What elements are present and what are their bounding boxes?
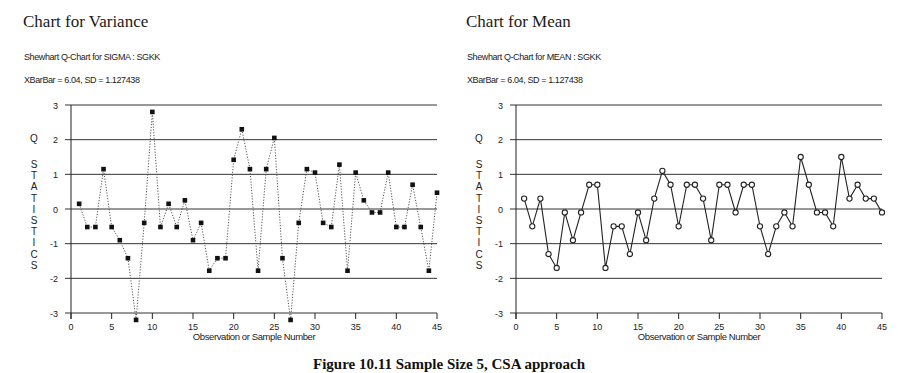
data-point-circle <box>741 182 746 187</box>
y-tick-label: 3 <box>498 101 503 111</box>
x-tick-label: 40 <box>836 322 846 332</box>
data-point-square <box>93 225 98 230</box>
x-tick-label: 45 <box>877 322 887 332</box>
data-point-square <box>166 202 171 207</box>
y-axis-label-letter: T <box>31 170 37 181</box>
data-point-square <box>362 198 367 203</box>
data-point-square <box>329 225 334 230</box>
y-axis-label-letter: S <box>31 260 38 271</box>
x-tick-label: 0 <box>513 322 518 332</box>
data-point-square <box>101 167 106 172</box>
x-tick-label: 45 <box>432 322 442 332</box>
data-point-circle <box>798 154 803 159</box>
data-point-circle <box>717 182 722 187</box>
data-point-square <box>272 136 277 141</box>
data-point-circle <box>831 224 836 229</box>
data-point-circle <box>709 238 714 243</box>
data-point-circle <box>822 210 827 215</box>
data-point-circle <box>619 224 624 229</box>
data-point-circle <box>766 251 771 256</box>
data-point-square <box>313 170 318 175</box>
data-point-circle <box>570 238 575 243</box>
data-point-circle <box>668 182 673 187</box>
series-line <box>524 157 882 268</box>
y-axis-label-letter: S <box>476 215 483 226</box>
data-point-circle <box>871 196 876 201</box>
data-point-square <box>134 318 139 323</box>
data-point-square <box>158 225 163 230</box>
y-tick-label: -2 <box>50 274 58 284</box>
data-point-circle <box>627 251 632 256</box>
data-point-circle <box>790 224 795 229</box>
y-axis-label-letter: S <box>31 215 38 226</box>
variance-q-chart: -3-2-10123051015202530354045Observation … <box>30 101 442 343</box>
y-axis-label-letter: T <box>476 193 482 204</box>
mean-q-chart: -3-2-10123051015202530354045Observation … <box>475 101 887 343</box>
x-tick-label: 35 <box>351 322 361 332</box>
data-point-square <box>215 256 220 261</box>
y-axis-label-letter: I <box>478 204 481 215</box>
data-point-square <box>231 157 236 162</box>
data-point-circle <box>692 182 697 187</box>
series-line <box>79 112 437 320</box>
y-tick-label: 2 <box>498 135 503 145</box>
data-point-circle <box>611 224 616 229</box>
y-axis-label-letter: I <box>478 237 481 248</box>
data-point-square <box>305 167 310 172</box>
data-point-circle <box>603 265 608 270</box>
data-point-circle <box>839 154 844 159</box>
data-point-square <box>240 127 245 132</box>
data-point-square <box>174 225 179 230</box>
data-point-circle <box>660 168 665 173</box>
data-point-circle <box>595 182 600 187</box>
data-point-square <box>337 162 342 167</box>
data-point-square <box>435 190 440 195</box>
y-axis-label-letter: C <box>475 249 482 260</box>
data-point-circle <box>863 196 868 201</box>
data-point-circle <box>733 210 738 215</box>
data-point-square <box>85 225 90 230</box>
figure-caption: Figure 10.11 Sample Size 5, CSA approach <box>0 356 898 373</box>
data-point-circle <box>546 251 551 256</box>
data-point-circle <box>806 182 811 187</box>
data-point-circle <box>578 210 583 215</box>
data-point-circle <box>757 224 762 229</box>
data-point-square <box>248 167 253 172</box>
data-point-circle <box>847 196 852 201</box>
data-point-circle <box>538 196 543 201</box>
y-axis-label-letter: A <box>476 181 483 192</box>
data-point-circle <box>749 182 754 187</box>
y-tick-label: -3 <box>50 309 58 319</box>
data-point-circle <box>562 210 567 215</box>
data-point-circle <box>774 224 779 229</box>
data-point-square <box>418 225 423 230</box>
data-point-circle <box>554 265 559 270</box>
data-point-square <box>142 221 147 226</box>
data-point-square <box>345 268 350 273</box>
data-point-square <box>410 182 415 187</box>
data-point-circle <box>879 210 884 215</box>
y-tick-label: -2 <box>495 274 503 284</box>
data-point-square <box>394 225 399 230</box>
x-axis-label: Observation or Sample Number <box>638 331 761 342</box>
data-point-square <box>118 238 123 243</box>
data-point-square <box>256 268 261 273</box>
data-point-circle <box>635 210 640 215</box>
data-point-square <box>126 256 131 261</box>
y-axis-label-letter: A <box>31 181 38 192</box>
y-axis-label-q: Q <box>475 133 483 144</box>
y-tick-label: 3 <box>53 101 58 111</box>
data-point-square <box>288 318 293 323</box>
data-point-square <box>207 268 212 273</box>
data-point-square <box>109 225 114 230</box>
data-point-circle <box>644 238 649 243</box>
y-tick-label: 0 <box>498 205 503 215</box>
data-point-square <box>402 225 407 230</box>
x-tick-label: 10 <box>592 322 602 332</box>
y-axis-label-letter: T <box>31 193 37 204</box>
y-axis-label-letter: T <box>476 226 482 237</box>
data-point-square <box>264 167 269 172</box>
data-point-square <box>378 210 383 215</box>
x-tick-label: 40 <box>391 322 401 332</box>
